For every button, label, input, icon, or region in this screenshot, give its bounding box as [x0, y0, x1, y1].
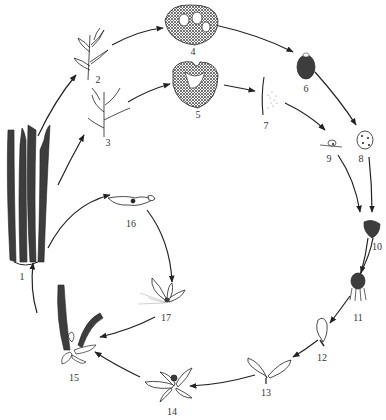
stage-12-sporeling — [317, 318, 328, 346]
stage-4-cross-section — [165, 5, 218, 45]
stage-6-sporangium — [297, 53, 315, 79]
stage-label-11: 11 — [353, 313, 363, 323]
stage-label-17: 17 — [161, 313, 171, 323]
stage-16-prothallus — [108, 195, 155, 205]
stage-13-seedling — [248, 358, 291, 384]
stage-1-mature-plant — [7, 125, 50, 265]
stage-label-10: 10 — [372, 242, 382, 252]
stage-17-sprouting-plant — [138, 278, 185, 304]
stage-label-2: 2 — [96, 75, 101, 85]
stage-label-16: 16 — [126, 219, 136, 229]
diagram-canvas — [0, 0, 386, 420]
stage-label-12: 12 — [317, 353, 327, 363]
stage-5-cross-section — [173, 62, 218, 108]
stage-label-13: 13 — [261, 388, 271, 398]
stage-label-14: 14 — [167, 407, 177, 417]
stage-label-5: 5 — [196, 110, 201, 120]
stage-label-7: 7 — [264, 121, 269, 131]
stage-label-9: 9 — [327, 154, 332, 164]
stage-3-branch — [88, 88, 130, 137]
stage-9-microspore — [320, 140, 342, 147]
stage-11-embryo — [350, 273, 366, 301]
stage-8-megaspore — [357, 131, 373, 149]
stage-label-4: 4 — [191, 47, 196, 57]
stage-label-15: 15 — [69, 373, 79, 383]
stage-label-6: 6 — [304, 84, 309, 94]
stage-label-3: 3 — [106, 138, 111, 148]
stage-2-branch — [74, 28, 108, 80]
stage-14-young-plant — [145, 368, 192, 402]
stage-label-8: 8 — [359, 154, 364, 164]
stage-label-1: 1 — [20, 272, 25, 282]
life-cycle-diagram: 1 2 3 4 5 6 7 8 9 10 11 12 13 14 15 16 1… — [0, 0, 386, 420]
stage-10-gametophyte — [364, 220, 380, 238]
stage-7-spore-release — [262, 77, 277, 115]
